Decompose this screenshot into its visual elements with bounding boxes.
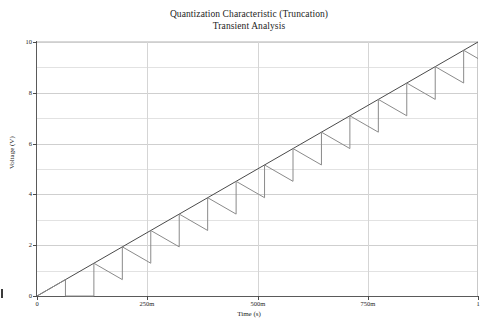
y-tick-label: 10 [26,39,33,46]
plot-area: 0246810 0250m500m750m1 [37,42,478,296]
y-tick-label: 0 [29,293,32,300]
x-tick-label: 500m [251,301,266,308]
y-tick-label: 6 [29,141,32,148]
y-tick-label: 4 [29,191,32,198]
y-axis-label: Voltage (V) [8,136,16,169]
x-tick-label: 250m [140,301,155,308]
x-axis-label: Time (s) [0,310,498,318]
x-tick-label: 0 [35,301,38,308]
chart-screenshot: Quantization Characteristic (Truncation)… [0,0,498,328]
left-edge-artifact [1,289,3,298]
x-tick-label: 750m [361,301,376,308]
series-layer [37,42,478,296]
ramp-input-line [37,42,478,296]
chart-title: Quantization Characteristic (Truncation) [0,8,498,20]
chart-title-block: Quantization Characteristic (Truncation)… [0,8,498,32]
x-tick-label: 1 [476,301,479,308]
quantized-output-line [37,50,478,296]
x-axis-spine [36,296,478,297]
y-tick-label: 8 [29,90,32,97]
y-tick-label: 2 [29,242,32,249]
chart-subtitle: Transient Analysis [0,20,498,32]
